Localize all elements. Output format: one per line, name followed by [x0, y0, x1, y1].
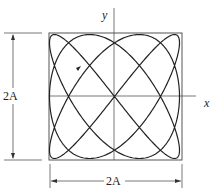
x-axis-label: x — [203, 96, 210, 110]
width-dimension-label: 2A — [106, 174, 121, 188]
arrowhead-icon — [175, 179, 181, 183]
lissajous-diagram: y x 2A 2A — [0, 0, 222, 196]
y-axis-label: y — [101, 8, 108, 22]
height-dimension-label: 2A — [3, 89, 18, 103]
arrowhead-icon — [11, 34, 15, 40]
arrowhead-icon — [51, 179, 57, 183]
arrowhead-icon — [11, 153, 15, 159]
lissajous-curve — [50, 35, 180, 159]
direction-arrow-icon — [76, 66, 81, 71]
